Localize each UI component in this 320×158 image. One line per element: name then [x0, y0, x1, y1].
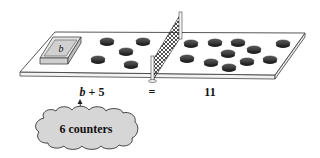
- counter: [184, 40, 198, 48]
- counter: [100, 38, 114, 46]
- counter: [180, 55, 194, 63]
- box-label: b: [59, 43, 64, 54]
- equation-operator: =: [149, 85, 156, 99]
- counter: [136, 38, 150, 46]
- net-post-back: [179, 12, 182, 39]
- callout-text: 6 counters: [60, 122, 113, 136]
- equation: b + 5 = 11: [80, 85, 216, 99]
- counter: [119, 48, 133, 56]
- counter: [276, 40, 290, 48]
- counter: [231, 39, 245, 47]
- counter: [247, 46, 261, 54]
- equation-left: b + 5: [80, 85, 105, 99]
- counter: [240, 58, 254, 66]
- counter: [124, 61, 138, 69]
- counter: [204, 59, 218, 67]
- counter: [208, 39, 222, 47]
- counter: [221, 50, 235, 58]
- counter: [263, 56, 277, 64]
- counter: [91, 56, 105, 64]
- balance-diagram: b b + 5 = 11: [0, 0, 320, 158]
- net-post-front: [151, 56, 154, 81]
- equation-right: 11: [204, 85, 215, 99]
- callout-cloud: 6 counters: [36, 106, 138, 149]
- counter: [222, 64, 236, 72]
